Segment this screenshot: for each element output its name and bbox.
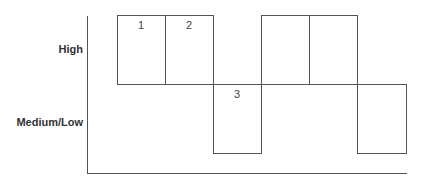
y-label-medium-low: Medium/Low (16, 116, 83, 128)
y-axis (87, 16, 88, 174)
x-axis (87, 173, 407, 174)
block-5-high (309, 15, 358, 85)
block-1-label: 1 (117, 19, 165, 31)
block-3-label: 3 (213, 88, 261, 100)
y-label-high: High (59, 43, 83, 55)
block-6-low (357, 84, 407, 154)
block-2-label: 2 (165, 19, 213, 31)
block-4-high (261, 15, 310, 85)
